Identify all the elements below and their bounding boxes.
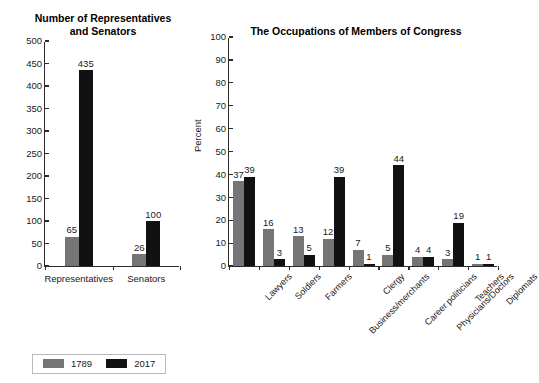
bar-1789-teachers	[442, 259, 453, 266]
bar-2017-career-politicians	[393, 165, 404, 266]
y-axis-tick-mark	[229, 59, 233, 60]
y-axis-tick-mark	[45, 198, 49, 199]
plot-area-left: 05010015020025030035040045050065435Repre…	[44, 42, 179, 267]
x-axis-category-label: Representatives	[44, 273, 113, 284]
x-axis-tick-mark	[498, 266, 499, 270]
y-axis-tick-mark	[229, 151, 233, 152]
y-axis-tick-label: 10	[215, 238, 229, 248]
x-axis-tick-mark	[113, 266, 114, 270]
y-axis-tick-label: 50	[31, 239, 45, 249]
y-axis-tick-label: 350	[26, 104, 45, 114]
chart-title-right: The Occupations of Members of Congress	[206, 25, 506, 38]
x-axis-tick-mark	[45, 266, 46, 270]
bar-value-label: 19	[447, 211, 470, 221]
legend-swatch-1789	[43, 359, 64, 368]
y-axis-tick-mark	[229, 105, 233, 106]
bar-value-label: 13	[287, 225, 310, 235]
y-axis-tick-label: 200	[26, 171, 45, 181]
y-axis-tick-label: 70	[215, 101, 229, 111]
y-axis-tick-label: 450	[26, 59, 45, 69]
y-axis-tick-mark	[229, 36, 233, 37]
plot-area-right: 01020304050607080901003739Lawyers163Sold…	[228, 38, 497, 267]
bar-value-label: 3	[268, 248, 291, 258]
bar-1789-representatives	[65, 237, 79, 266]
bar-value-label: 1	[477, 252, 500, 262]
x-axis-tick-mark	[438, 266, 439, 270]
bar-2017-senators	[146, 221, 160, 266]
bar-value-label: 39	[328, 165, 351, 175]
bar-2017-diplomats	[483, 264, 494, 266]
y-axis-tick-label: 90	[215, 55, 229, 65]
bar-value-label: 16	[257, 218, 280, 228]
x-axis-category-label: Farmers	[324, 272, 354, 302]
bar-value-label: 39	[238, 165, 261, 175]
bar-value-label: 100	[140, 210, 166, 220]
bar-2017-lawyers	[244, 177, 255, 266]
y-axis-tick-mark	[45, 130, 49, 131]
chart-representatives-senators: Number of Representatives and Senators 0…	[0, 0, 196, 340]
x-axis-tick-mark	[319, 266, 320, 270]
y-axis-tick-label: 250	[26, 149, 45, 159]
x-axis-tick-mark	[378, 266, 379, 270]
bar-2017-representatives	[79, 70, 93, 266]
bar-value-label: 7	[347, 238, 370, 248]
bar-1789-physicians-doctors	[412, 257, 423, 266]
bar-2017-clergy	[364, 264, 375, 266]
bar-2017-teachers	[453, 223, 464, 267]
x-axis-category-label: Soldiers	[293, 272, 322, 301]
bar-value-label: 435	[73, 59, 99, 69]
bar-2017-physicians-doctors	[423, 257, 434, 266]
x-axis-tick-mark	[289, 266, 290, 270]
bar-2017-business-merchants	[334, 177, 345, 266]
bar-1789-diplomats	[472, 264, 483, 266]
y-axis-tick-mark	[45, 63, 49, 64]
x-axis-category-label: Lawyers	[264, 272, 294, 302]
x-axis-tick-mark	[259, 266, 260, 270]
bar-1789-lawyers	[233, 181, 244, 266]
y-axis-tick-mark	[45, 243, 49, 244]
y-axis-tick-mark	[45, 220, 49, 221]
y-axis-tick-mark	[45, 108, 49, 109]
y-axis-tick-label: 20	[215, 215, 229, 225]
y-axis-tick-label: 30	[215, 193, 229, 203]
x-axis-category-label: Senators	[127, 273, 165, 284]
legend-item-1789: 1789	[43, 359, 92, 369]
y-axis-tick-mark	[45, 153, 49, 154]
y-axis-tick-label: 100	[26, 216, 45, 226]
y-axis-tick-label: 300	[26, 126, 45, 136]
y-axis-tick-label: 150	[26, 194, 45, 204]
y-axis-tick-mark	[229, 128, 233, 129]
legend-label-2017: 2017	[134, 359, 155, 369]
y-axis-tick-label: 50	[215, 147, 229, 157]
x-axis-tick-mark	[468, 266, 469, 270]
bar-value-label: 1	[358, 252, 381, 262]
x-axis-tick-mark	[408, 266, 409, 270]
y-axis-tick-label: 0	[37, 261, 45, 271]
y-axis-tick-mark	[229, 82, 233, 83]
bar-2017-farmers	[304, 255, 315, 266]
bar-1789-business-merchants	[323, 239, 334, 266]
y-axis-tick-label: 0	[221, 261, 229, 271]
y-axis-tick-label: 80	[215, 78, 229, 88]
y-axis-tick-mark	[45, 40, 49, 41]
bar-1789-senators	[132, 254, 146, 266]
bar-1789-career-politicians	[382, 255, 393, 266]
x-axis-tick-mark	[349, 266, 350, 270]
chart-occupations: The Occupations of Members of Congress P…	[186, 0, 514, 340]
y-axis-tick-label: 400	[26, 81, 45, 91]
y-axis-label-right: Percent	[192, 119, 203, 152]
legend: 1789 2017	[32, 354, 166, 374]
bar-2017-soldiers	[274, 259, 285, 266]
y-axis-tick-label: 60	[215, 124, 229, 134]
legend-swatch-2017	[106, 359, 127, 368]
y-axis-tick-label: 500	[26, 36, 45, 46]
bar-value-label: 5	[298, 243, 321, 253]
chart-title-left: Number of Representatives and Senators	[14, 12, 192, 38]
legend-item-2017: 2017	[106, 359, 155, 369]
x-axis-tick-mark	[180, 266, 181, 270]
y-axis-tick-mark	[45, 175, 49, 176]
y-axis-tick-mark	[45, 85, 49, 86]
x-axis-tick-mark	[229, 266, 230, 270]
y-axis-tick-label: 100	[210, 32, 229, 42]
legend-label-1789: 1789	[71, 359, 92, 369]
